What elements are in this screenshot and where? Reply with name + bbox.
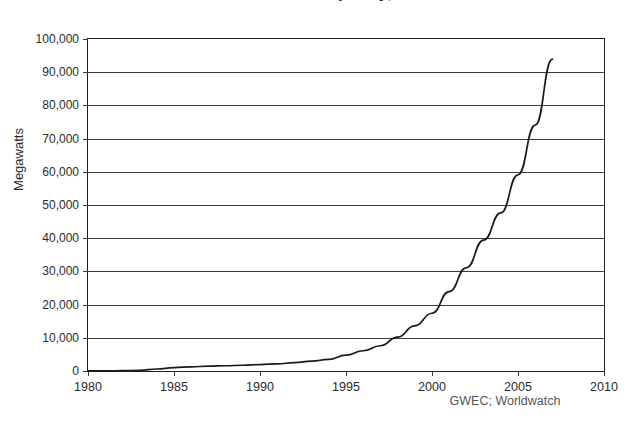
y-tick-label: 10,000 <box>42 331 79 345</box>
x-tick-label: 1995 <box>332 380 360 394</box>
data-line <box>88 59 552 371</box>
x-tick-label: 1990 <box>246 380 274 394</box>
x-tick-label: 2005 <box>504 380 532 394</box>
x-tick-mark <box>174 371 175 376</box>
x-tick-label: 1985 <box>160 380 188 394</box>
chart-figure: Global Wind Power Capacity, 1980-2007 Me… <box>0 0 633 422</box>
y-tick-label: 50,000 <box>42 198 79 212</box>
y-tick-label: 100,000 <box>36 32 79 46</box>
y-tick-label: 20,000 <box>42 298 79 312</box>
x-tick-mark <box>518 371 519 376</box>
y-axis-title: Megawatts <box>11 115 26 205</box>
chart-title-cropped: Global Wind Power Capacity, 1980-2007 <box>0 0 633 10</box>
y-tick-label: 80,000 <box>42 98 79 112</box>
source-note: GWEC; Worldwatch <box>400 394 610 408</box>
data-series-layer <box>88 39 604 371</box>
x-tick-mark <box>346 371 347 376</box>
y-tick-label: 60,000 <box>42 165 79 179</box>
y-tick-label: 40,000 <box>42 231 79 245</box>
x-tick-mark <box>260 371 261 376</box>
x-tick-label: 1980 <box>74 380 102 394</box>
x-tick-label: 2010 <box>590 380 618 394</box>
y-tick-label: 30,000 <box>42 264 79 278</box>
x-tick-label: 2000 <box>418 380 446 394</box>
plot-area: 010,00020,00030,00040,00050,00060,00070,… <box>87 38 605 372</box>
y-tick-label: 90,000 <box>42 65 79 79</box>
y-tick-label: 0 <box>72 364 79 378</box>
y-tick-label: 70,000 <box>42 132 79 146</box>
x-tick-mark <box>432 371 433 376</box>
x-tick-mark <box>604 371 605 376</box>
chart-title: Global Wind Power Capacity, 1980-2007 <box>0 0 633 3</box>
